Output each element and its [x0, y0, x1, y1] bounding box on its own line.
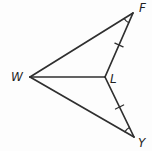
figure-edges: [30, 13, 134, 137]
geometry-diagram: W F L Y: [0, 0, 152, 151]
geometry-figure-svg: W F L Y: [0, 0, 152, 151]
vertex-label-Y: Y: [138, 136, 147, 150]
angle-arc-F: [124, 19, 129, 23]
congruence-marks: [115, 19, 129, 132]
vertex-label-F: F: [139, 1, 147, 15]
angle-arc-Y: [125, 128, 129, 132]
vertex-label-W: W: [11, 70, 24, 84]
vertex-label-L: L: [110, 72, 117, 86]
